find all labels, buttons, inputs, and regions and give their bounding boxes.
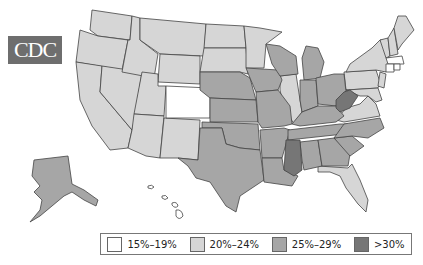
legend-label: >30% bbox=[374, 239, 405, 250]
state-wyoming[interactable] bbox=[158, 54, 200, 84]
state-northdakota[interactable] bbox=[204, 24, 246, 48]
state-mississippi[interactable] bbox=[284, 140, 302, 176]
state-maine[interactable] bbox=[394, 16, 414, 50]
legend-label: 15%–19% bbox=[127, 239, 176, 250]
state-kansas[interactable] bbox=[210, 98, 258, 122]
state-alaska[interactable] bbox=[30, 156, 98, 222]
legend-swatch-30plus bbox=[354, 237, 369, 252]
legend-item: >30% bbox=[354, 237, 405, 252]
state-nebraska[interactable] bbox=[200, 72, 256, 100]
legend-swatch-15-19 bbox=[107, 237, 122, 252]
state-pennsylvania[interactable] bbox=[344, 70, 380, 90]
legend-item: 15%–19% bbox=[107, 237, 176, 252]
state-hawaii[interactable] bbox=[148, 185, 183, 218]
legend-label: 25%–29% bbox=[292, 239, 341, 250]
state-connecticut[interactable] bbox=[386, 64, 394, 72]
legend-swatch-20-24 bbox=[190, 237, 205, 252]
legend-item: 20%–24% bbox=[190, 237, 259, 252]
state-newmexico[interactable] bbox=[160, 118, 200, 160]
legend-label: 20%–24% bbox=[210, 239, 259, 250]
state-michigan[interactable] bbox=[302, 46, 324, 80]
legend-item: 25%–29% bbox=[272, 237, 341, 252]
state-rhodeisland[interactable] bbox=[394, 64, 400, 70]
state-southdakota[interactable] bbox=[200, 48, 248, 74]
us-map bbox=[0, 0, 423, 265]
state-newjersey[interactable] bbox=[378, 72, 386, 88]
state-florida[interactable] bbox=[318, 164, 368, 212]
state-arizona[interactable] bbox=[128, 114, 164, 158]
legend-swatch-25-29 bbox=[272, 237, 287, 252]
legend: 15%–19% 20%–24% 25%–29% >30% bbox=[100, 233, 412, 255]
